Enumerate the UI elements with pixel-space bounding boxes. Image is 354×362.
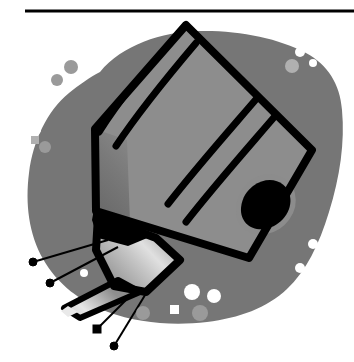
speckle-dot [28, 286, 40, 298]
speckle-dot [37, 85, 51, 99]
speckle-dot [80, 269, 88, 277]
leader-dot [46, 279, 54, 287]
leader-dot [110, 342, 118, 350]
speckle-square [170, 305, 179, 314]
speckle-dot [192, 305, 208, 321]
leader-dot [29, 258, 37, 266]
speckle-dot [64, 60, 78, 74]
speckle-dot [51, 74, 63, 86]
illustration-canvas [0, 0, 354, 362]
speckle-dot [31, 125, 41, 135]
speckle-dot [136, 306, 150, 320]
page-root: Grayscale clip-art of an angled cylindri… [0, 0, 354, 362]
speckle-dot [309, 59, 317, 67]
speckle-dot [308, 239, 318, 249]
speckle-square [31, 136, 39, 144]
leader-dot [93, 325, 101, 333]
speckle-dot [184, 284, 200, 300]
speckle-dot [35, 273, 45, 283]
speckle-dot [295, 263, 305, 273]
speckle-dot [207, 289, 221, 303]
speckle-dot [295, 47, 305, 57]
speckle-dot [39, 141, 51, 153]
speckle-dot [285, 59, 299, 73]
